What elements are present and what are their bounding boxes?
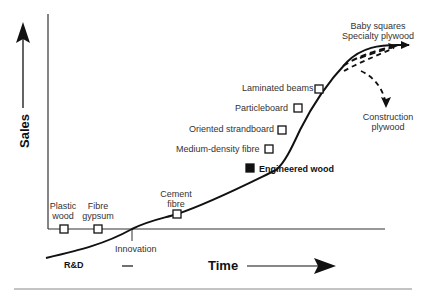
label-particleboard: Particleboard [235, 103, 288, 113]
dashed-specialty [344, 48, 394, 71]
rnd-label: R&D [64, 260, 84, 270]
dashed-construction [361, 71, 385, 100]
label-fibre-gypsum: Fibre gypsum [80, 201, 116, 221]
label-medium-density-fibre: Medium-density fibre [176, 144, 260, 154]
marker-plastic-wood [60, 225, 68, 233]
label-laminated-beams: Laminated beams [242, 83, 314, 93]
marker-medium-density-fibre [265, 145, 273, 153]
label-engineered-wood: Engineered wood [259, 164, 334, 174]
label-plastic-wood: Plastic wood [46, 201, 80, 221]
sales-arrow-icon [16, 22, 30, 108]
marker-oriented-strandboard [278, 126, 286, 134]
label-oriented-strandboard: Oriented strandboard [189, 124, 274, 134]
x-axis-label: Time [208, 258, 238, 273]
marker-fibre-gypsum [94, 225, 102, 233]
label-future-up: Baby squares Specialty plywood [338, 21, 418, 41]
label-future-down: Construction plywood [360, 112, 416, 132]
label-cement-fibre: Cement fibre [158, 189, 194, 209]
marker-cement-fibre [173, 210, 181, 218]
marker-laminated-beams [315, 85, 323, 93]
future-upward-dashed [343, 50, 393, 72]
y-axis-label: Sales [17, 114, 32, 148]
innovation-label: Innovation [115, 244, 157, 254]
marker-engineered-wood [246, 164, 254, 172]
marker-particleboard [294, 104, 302, 112]
